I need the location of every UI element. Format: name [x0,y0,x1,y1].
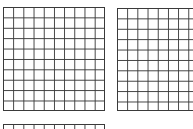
hundred-grid-3 [3,124,105,129]
hundred-grid-2 [117,8,193,111]
hundred-grid-1 [3,7,105,111]
diagram-canvas [0,0,193,129]
